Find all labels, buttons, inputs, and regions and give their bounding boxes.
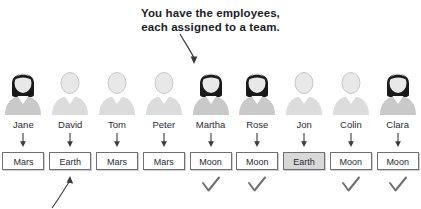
check-column-martha bbox=[187, 176, 234, 196]
team-box-column: Mars bbox=[140, 150, 187, 172]
connector-column bbox=[374, 133, 421, 149]
team-box-martha[interactable]: Moon bbox=[190, 152, 232, 170]
check-mark-icon bbox=[388, 176, 408, 194]
callout-arrow-up-right-icon bbox=[50, 176, 80, 209]
team-box-column: Earth bbox=[281, 150, 328, 172]
team-box-jon[interactable]: Earth bbox=[283, 152, 325, 170]
connector-column bbox=[0, 133, 47, 149]
connector-column bbox=[140, 133, 187, 149]
arrow-down-icon bbox=[253, 133, 262, 148]
team-box-tom[interactable]: Mars bbox=[96, 152, 138, 170]
team-box-rose[interactable]: Moon bbox=[236, 152, 278, 170]
arrow-down-icon bbox=[300, 133, 309, 148]
connector-column bbox=[234, 133, 281, 149]
connector-arrows-row bbox=[0, 133, 421, 149]
team-box-david[interactable]: Earth bbox=[49, 152, 91, 170]
employee-name-label: Clara bbox=[374, 119, 421, 130]
employee-name-label: David bbox=[47, 119, 94, 130]
employee-figure-jon bbox=[281, 63, 328, 115]
team-box-colin[interactable]: Moon bbox=[330, 152, 372, 170]
employee-figure-rose bbox=[234, 63, 281, 115]
check-column-rose bbox=[234, 176, 281, 196]
employee-figure-colin bbox=[327, 63, 374, 115]
employee-name-label: Rose bbox=[234, 119, 281, 130]
curved-arrow-down-right-icon bbox=[178, 33, 214, 65]
team-box-column: Earth bbox=[47, 150, 94, 172]
arrow-down-icon bbox=[112, 133, 121, 148]
person-female-icon bbox=[377, 63, 419, 115]
check-column-jane bbox=[0, 176, 47, 196]
check-column-clara bbox=[374, 176, 421, 196]
arrow-down-icon bbox=[393, 133, 402, 148]
person-male-icon bbox=[143, 63, 185, 115]
employee-name-label: Colin bbox=[327, 119, 374, 130]
employee-figure-clara bbox=[374, 63, 421, 115]
arrow-down-icon bbox=[19, 133, 28, 148]
connector-column bbox=[94, 133, 141, 149]
employee-figure-peter bbox=[140, 63, 187, 115]
person-male-icon bbox=[96, 63, 138, 115]
title-line-1: You have the employees, bbox=[0, 7, 421, 21]
team-assignment-row: MarsEarthMarsMarsMoonMoonEarthMoonMoon bbox=[0, 150, 421, 172]
team-box-column: Moon bbox=[374, 150, 421, 172]
employee-figure-jane bbox=[0, 63, 47, 115]
employee-figure-tom bbox=[94, 63, 141, 115]
arrow-down-icon bbox=[346, 133, 355, 148]
title-line-2: each assigned to a team. bbox=[0, 21, 421, 35]
check-column-tom bbox=[94, 176, 141, 196]
arrow-down-icon bbox=[159, 133, 168, 148]
employee-figures-row bbox=[0, 63, 421, 115]
team-box-clara[interactable]: Moon bbox=[377, 152, 419, 170]
person-female-icon bbox=[2, 63, 44, 115]
person-female-icon bbox=[190, 63, 232, 115]
employee-name-label: Martha bbox=[187, 119, 234, 130]
team-box-column: Moon bbox=[234, 150, 281, 172]
employee-name-label: Tom bbox=[94, 119, 141, 130]
connector-column bbox=[281, 133, 328, 149]
check-column-colin bbox=[327, 176, 374, 196]
employee-figure-david bbox=[47, 63, 94, 115]
team-box-peter[interactable]: Mars bbox=[143, 152, 185, 170]
connector-column bbox=[327, 133, 374, 149]
check-column-peter bbox=[140, 176, 187, 196]
arrow-down-icon bbox=[66, 133, 75, 148]
employee-name-label: Jane bbox=[0, 119, 47, 130]
connector-column bbox=[187, 133, 234, 149]
employee-name-label: Peter bbox=[140, 119, 187, 130]
team-box-column: Mars bbox=[94, 150, 141, 172]
person-male-icon bbox=[330, 63, 372, 115]
connector-column bbox=[47, 133, 94, 149]
check-column-jon bbox=[281, 176, 328, 196]
team-box-column: Moon bbox=[327, 150, 374, 172]
check-mark-icon bbox=[341, 176, 361, 194]
team-box-column: Mars bbox=[0, 150, 47, 172]
person-male-icon bbox=[283, 63, 325, 115]
employee-name-label: Jon bbox=[281, 119, 328, 130]
person-female-icon bbox=[236, 63, 278, 115]
person-male-icon bbox=[49, 63, 91, 115]
employee-figure-martha bbox=[187, 63, 234, 115]
page-title: You have the employees, each assigned to… bbox=[0, 7, 421, 34]
check-mark-icon bbox=[247, 176, 267, 194]
arrow-down-icon bbox=[206, 133, 215, 148]
team-box-column: Moon bbox=[187, 150, 234, 172]
employee-names-row: JaneDavidTomPeterMarthaRoseJonColinClara bbox=[0, 119, 421, 130]
team-box-jane[interactable]: Mars bbox=[2, 152, 44, 170]
check-mark-icon bbox=[201, 176, 221, 194]
